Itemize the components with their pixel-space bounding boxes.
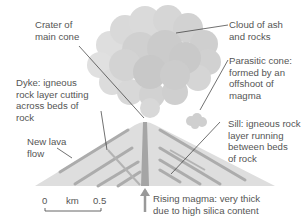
- label-sill: Sill: igneous rock layer running between…: [228, 118, 301, 164]
- magma-arrow-icon: [140, 188, 150, 212]
- label-parasitic: Parasitic cone: formed by an offshoot of…: [229, 55, 292, 101]
- scale-end: 0.5: [93, 195, 106, 207]
- parasitic-cone: [186, 113, 207, 129]
- label-magma: Rising magma: very thick due to high sil…: [153, 193, 260, 216]
- label-crater: Crater of main cone: [35, 19, 79, 42]
- scale-bar: [45, 208, 101, 211]
- label-cloud: Cloud of ash and rocks: [229, 19, 283, 42]
- scale-unit: km: [66, 195, 79, 207]
- label-dyke: Dyke: igneous rock layer cutting across …: [16, 77, 89, 123]
- scale-start: 0: [42, 195, 47, 207]
- ash-cloud: [87, 5, 221, 118]
- label-lava: New lava flow: [27, 136, 66, 159]
